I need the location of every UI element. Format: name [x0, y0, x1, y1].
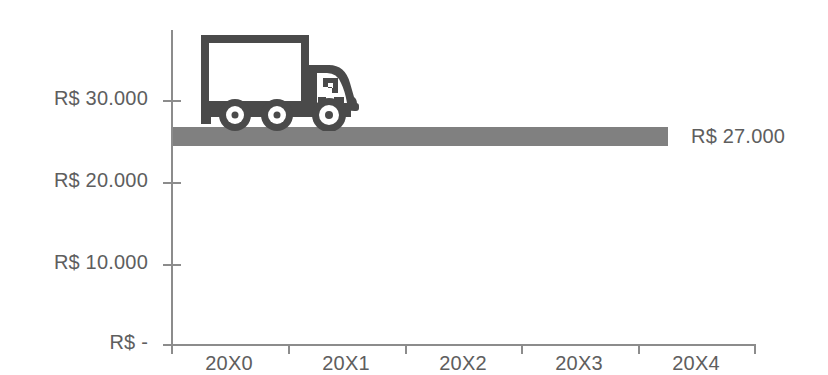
- x-axis-line: [171, 344, 756, 346]
- x-axis-label-20X4: 20X4: [626, 352, 766, 375]
- y-axis-label-0: R$ -: [0, 331, 148, 354]
- y-axis-tick-30000: [163, 100, 181, 102]
- delivery-truck-icon: [197, 31, 362, 135]
- y-axis-label-30000: R$ 30.000: [0, 87, 148, 110]
- y-axis-label-10000: R$ 10.000: [0, 251, 148, 274]
- y-axis-line: [171, 30, 173, 346]
- y-axis-label-20000: R$ 20.000: [0, 169, 148, 192]
- chart-container: R$ 30.000 R$ 20.000 R$ 10.000 R$ - 20X0 …: [0, 0, 828, 375]
- y-axis-tick-10000: [163, 264, 181, 266]
- y-axis-tick-20000: [163, 182, 181, 184]
- data-value-label: R$ 27.000: [691, 125, 785, 148]
